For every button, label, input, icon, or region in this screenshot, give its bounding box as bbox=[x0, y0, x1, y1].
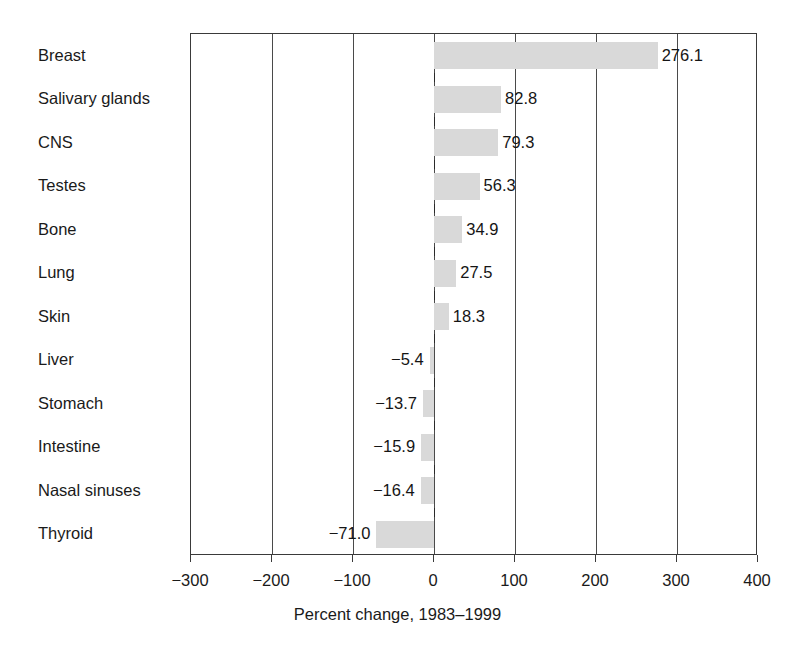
category-label: Nasal sinuses bbox=[38, 482, 141, 499]
bar-value-label: 56.3 bbox=[484, 177, 516, 194]
zero-axis-tick bbox=[434, 334, 435, 343]
bar-value-label: 82.8 bbox=[505, 90, 537, 107]
zero-axis-tick bbox=[434, 117, 435, 126]
x-axis-tick-label: −100 bbox=[333, 572, 370, 589]
gridline-−200 bbox=[272, 34, 273, 554]
x-axis-tick-label: 300 bbox=[662, 572, 690, 589]
category-label: Salivary glands bbox=[38, 90, 150, 107]
zero-axis-tick bbox=[434, 160, 435, 169]
x-axis-tick bbox=[190, 555, 191, 562]
bar-value-label: 79.3 bbox=[502, 134, 534, 151]
x-axis-tick bbox=[352, 555, 353, 562]
bar bbox=[421, 477, 434, 504]
x-axis-title: Percent change, 1983–1999 bbox=[0, 605, 795, 624]
bar bbox=[434, 129, 498, 156]
category-axis: BreastSalivary glandsCNSTestesBoneLungSk… bbox=[0, 33, 180, 555]
bar-value-label: −13.7 bbox=[375, 395, 417, 412]
category-label: Liver bbox=[38, 351, 74, 368]
x-axis-tick-label: 400 bbox=[743, 572, 771, 589]
category-label: Bone bbox=[38, 221, 77, 238]
zero-axis-tick bbox=[434, 247, 435, 256]
zero-axis-tick bbox=[434, 465, 435, 474]
category-label: Lung bbox=[38, 264, 75, 281]
zero-axis-tick bbox=[434, 421, 435, 430]
zero-axis-tick bbox=[434, 378, 435, 387]
gridline-300 bbox=[677, 34, 678, 554]
bar bbox=[434, 173, 480, 200]
category-label: Skin bbox=[38, 308, 70, 325]
bar-value-label: 27.5 bbox=[460, 264, 492, 281]
x-axis-tick-label: 100 bbox=[500, 572, 528, 589]
bar-value-label: 18.3 bbox=[453, 308, 485, 325]
x-axis-tick-label: −200 bbox=[252, 572, 289, 589]
bar bbox=[434, 303, 449, 330]
bar-value-label: −5.4 bbox=[391, 351, 424, 368]
x-axis-tick bbox=[271, 555, 272, 562]
bar bbox=[434, 86, 501, 113]
bar bbox=[376, 521, 434, 548]
bar bbox=[434, 216, 462, 243]
gridline-200 bbox=[596, 34, 597, 554]
bar-value-label: 276.1 bbox=[662, 47, 703, 64]
gridline-−100 bbox=[353, 34, 354, 554]
category-label: Testes bbox=[38, 177, 86, 194]
bar-value-label: −71.0 bbox=[329, 525, 371, 542]
bar bbox=[423, 390, 434, 417]
category-label: Stomach bbox=[38, 395, 103, 412]
x-axis-tick bbox=[433, 555, 434, 562]
x-axis-tick bbox=[595, 555, 596, 562]
gridline-100 bbox=[515, 34, 516, 554]
category-label: CNS bbox=[38, 134, 73, 151]
zero-axis-tick bbox=[434, 508, 435, 517]
x-axis-tick-label: 200 bbox=[581, 572, 609, 589]
bar bbox=[434, 42, 658, 69]
category-label: Thyroid bbox=[38, 525, 93, 542]
bar-value-label: −15.9 bbox=[373, 438, 415, 455]
bar bbox=[430, 347, 434, 374]
zero-axis-tick bbox=[434, 73, 435, 82]
plot-area bbox=[190, 33, 757, 555]
zero-axis-tick bbox=[434, 291, 435, 300]
category-label: Breast bbox=[38, 47, 86, 64]
x-axis-tick bbox=[514, 555, 515, 562]
bar-value-label: 34.9 bbox=[466, 221, 498, 238]
bar bbox=[434, 260, 456, 287]
bar-value-label: −16.4 bbox=[373, 482, 415, 499]
x-axis-tick-label: 0 bbox=[428, 572, 437, 589]
x-axis-tick bbox=[676, 555, 677, 562]
zero-axis-tick bbox=[434, 204, 435, 213]
bar bbox=[421, 434, 434, 461]
bar-chart: BreastSalivary glandsCNSTestesBoneLungSk… bbox=[0, 0, 795, 660]
category-label: Intestine bbox=[38, 438, 100, 455]
x-axis-tick-label: −300 bbox=[171, 572, 208, 589]
x-axis-tick bbox=[757, 555, 758, 562]
